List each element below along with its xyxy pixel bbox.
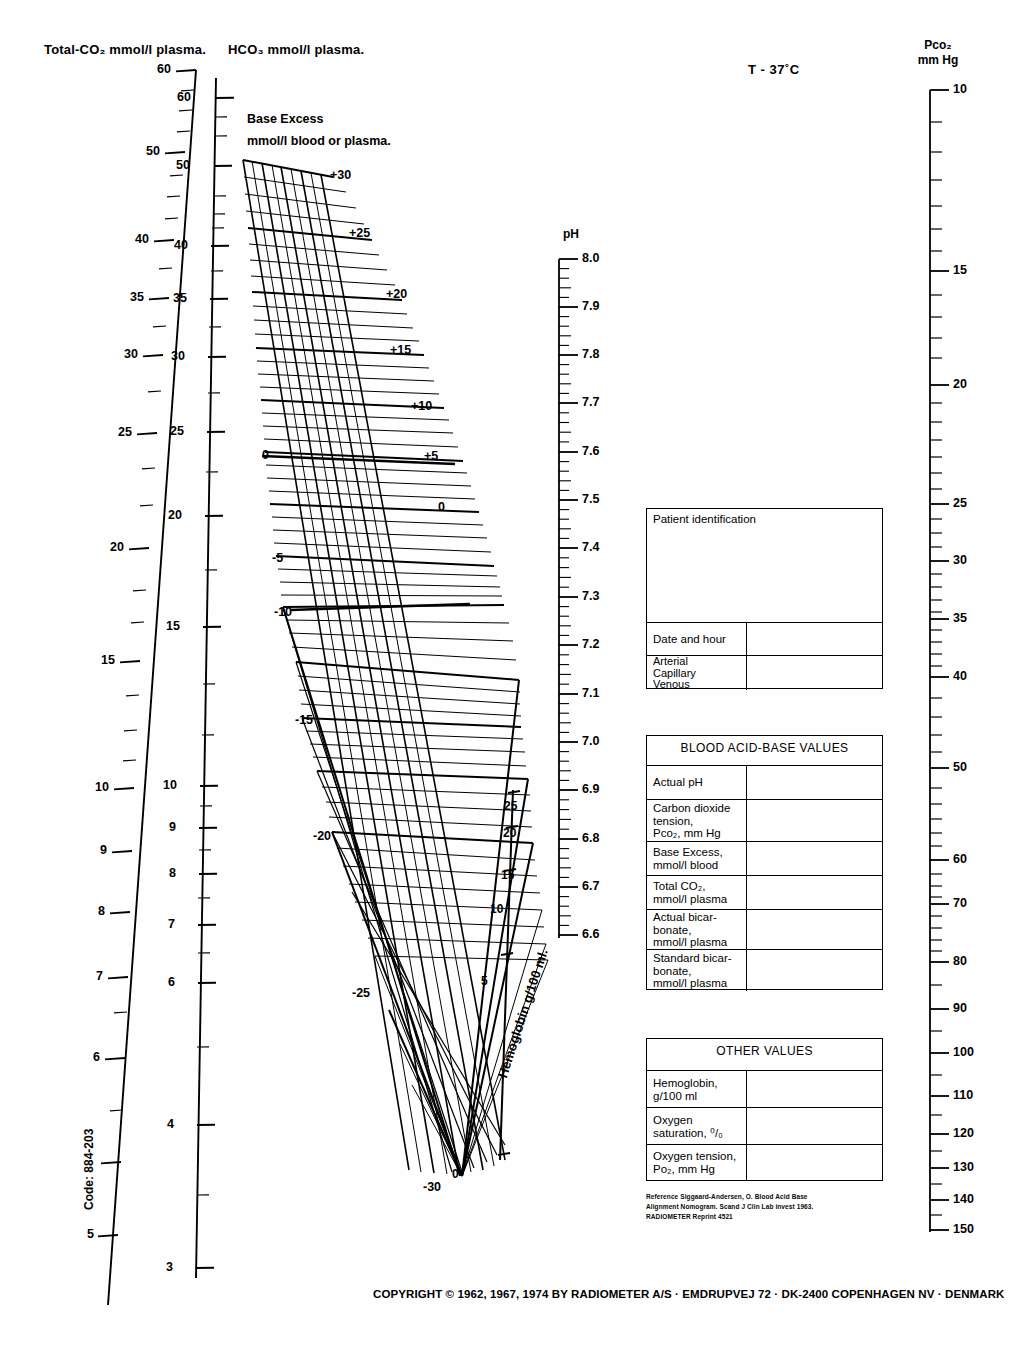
hco3-tick-3: 3 [128, 1260, 173, 1274]
pco2-tick-70: 70 [953, 896, 967, 910]
pco2-tick-150: 150 [953, 1222, 974, 1236]
ph-tick-7-3: 7.3 [582, 589, 599, 603]
pco2-tick-140: 140 [953, 1192, 974, 1206]
pco2-tick-120: 120 [953, 1126, 974, 1140]
base-excess-label-minus15: -15 [295, 713, 313, 727]
table-row: Actual pH [647, 766, 882, 800]
pco2-tick-110: 110 [953, 1088, 973, 1102]
pco2-tick-30: 30 [953, 553, 967, 567]
ph-tick-7-1: 7.1 [582, 686, 599, 700]
ph-tick-7-9: 7.9 [582, 299, 599, 313]
reference-line-3: RADIOMETER Reprint 4521 [646, 1212, 813, 1222]
hemoglobin-tick-15: 15 [501, 868, 514, 882]
oxygen-saturation-value[interactable] [747, 1108, 882, 1144]
hco3-tick-10: 10 [132, 778, 177, 792]
hco3-tick-35: 35 [142, 291, 187, 305]
ph-tick-7-8: 7.8 [582, 347, 599, 361]
total-co2-value[interactable] [747, 876, 882, 909]
sample-type-value[interactable] [747, 656, 882, 690]
table-row: Hemoglobin, g/100 ml [647, 1071, 882, 1108]
carbon-dioxide-tension-value[interactable] [747, 800, 882, 841]
total-co2-tick-60: 60 [131, 62, 171, 76]
base-excess-label-plus30: +30 [330, 168, 351, 182]
table-row: Total CO₂, mmol/l plasma [647, 876, 882, 910]
hemoglobin-tick-25: 25 [504, 799, 517, 813]
other-values-title: OTHER VALUES [647, 1039, 882, 1070]
hco3-tick-20: 20 [137, 508, 182, 522]
base-excess-label-plus15: +15 [390, 343, 411, 357]
table-row: Arterial Capillary Venous [647, 656, 882, 690]
hco3-tick-15: 15 [135, 619, 180, 633]
base-excess-label-plus5: +5 [424, 449, 438, 463]
blood-acid-base-header-row: BLOOD ACID-BASE VALUES [647, 736, 882, 766]
ph-tick-7-2: 7.2 [582, 637, 599, 651]
hco3-tick-25: 25 [139, 424, 184, 438]
base-excess-label-minus10: -10 [274, 605, 292, 619]
sample-type-label: Arterial Capillary Venous [647, 656, 747, 690]
ph-tick-7-7: 7.7 [582, 395, 599, 409]
ph-tick-6-6: 6.6 [582, 927, 599, 941]
pco2-tick-80: 80 [953, 954, 967, 968]
pco2-tick-60: 60 [953, 852, 967, 866]
total-co2-tick-35: 35 [104, 290, 144, 304]
reference-citation: Reference Siggaard-Andersen, O. Blood Ac… [646, 1192, 813, 1221]
hemoglobin-tick-10: 10 [490, 902, 503, 916]
pco2-tick-15: 15 [953, 263, 967, 277]
patient-id-header-row: Patient identification [647, 509, 882, 623]
table-row: Date and hour [647, 623, 882, 656]
hco3-tick-50: 50 [145, 158, 190, 172]
table-row: Oxygen saturation, ⁰/₀ [647, 1108, 882, 1145]
pco2-tick-40: 40 [953, 669, 967, 683]
table-row: Carbon dioxide tension, Pco₂, mm Hg [647, 800, 882, 842]
blood-acid-base-title: BLOOD ACID-BASE VALUES [647, 736, 882, 765]
date-and-hour-value[interactable] [747, 623, 882, 655]
total-co2-label: Total CO₂, mmol/l plasma [647, 876, 747, 909]
pco2-tick-50: 50 [953, 760, 967, 774]
blood-acid-base-values-table: BLOOD ACID-BASE VALUES Actual pH Carbon … [646, 735, 883, 990]
pco2-tick-20: 20 [953, 377, 967, 391]
base-excess-label-minus25: -25 [352, 986, 370, 1000]
base-excess-label-minus5: -5 [272, 551, 283, 565]
hco3-tick-6: 6 [130, 975, 175, 989]
ph-tick-6-8: 6.8 [582, 831, 599, 845]
oxygen-tension-label: Oxygen tension, Po₂, mm Hg [647, 1145, 747, 1180]
oxygen-saturation-label: Oxygen saturation, ⁰/₀ [647, 1108, 747, 1144]
standard-bicarbonate-value[interactable] [747, 950, 882, 991]
patient-id-title: Patient identification [647, 509, 882, 622]
total-co2-tick-50: 50 [120, 144, 160, 158]
total-co2-tick-8: 8 [65, 904, 105, 918]
pco2-tick-35: 35 [953, 611, 967, 625]
hemoglobin-value[interactable] [747, 1071, 882, 1107]
table-row: Standard bicar- bonate, mmol/l plasma [647, 950, 882, 991]
total-co2-tick-30: 30 [98, 347, 138, 361]
ph-tick-7-5: 7.5 [582, 492, 599, 506]
base-excess-value[interactable] [747, 842, 882, 875]
hco3-tick-30: 30 [140, 349, 185, 363]
base-excess-label: Base Excess, mmol/l blood [647, 842, 747, 875]
base-excess-label-zero-l: 0 [262, 448, 269, 462]
actual-ph-label: Actual pH [647, 766, 747, 799]
oxygen-tension-value[interactable] [747, 1145, 882, 1180]
ph-tick-6-7: 6.7 [582, 879, 599, 893]
total-co2-tick-5: 5 [54, 1227, 94, 1241]
base-excess-label-plus10: +10 [411, 399, 432, 413]
base-excess-label-minus30: -30 [423, 1180, 441, 1194]
hemoglobin-tick-5: 5 [481, 974, 488, 988]
base-excess-label-plus20: +20 [386, 287, 407, 301]
actual-ph-value[interactable] [747, 766, 882, 799]
total-co2-tick-20: 20 [84, 540, 124, 554]
ph-tick-7-0: 7.0 [582, 734, 599, 748]
standard-bicarbonate-label: Standard bicar- bonate, mmol/l plasma [647, 950, 747, 991]
pco2-tick-25: 25 [953, 496, 967, 510]
ph-tick-7-6: 7.6 [582, 444, 599, 458]
hemoglobin-tick-20: 20 [503, 826, 516, 840]
hco3-tick-9: 9 [131, 820, 176, 834]
nomogram-page: Total-CO₂ mmol/l plasma. HCO₃ mmol/l pla… [0, 0, 1012, 1347]
reference-line-1: Reference Siggaard-Andersen, O. Blood Ac… [646, 1192, 813, 1202]
other-values-table: OTHER VALUES Hemoglobin, g/100 ml Oxygen… [646, 1038, 883, 1181]
table-row: Base Excess, mmol/l blood [647, 842, 882, 876]
hemoglobin-label: Hemoglobin, g/100 ml [647, 1071, 747, 1107]
actual-bicarbonate-value[interactable] [747, 910, 882, 949]
hco3-tick-4: 4 [129, 1117, 174, 1131]
copyright-notice: COPYRIGHT © 1962, 1967, 1974 BY RADIOMET… [373, 1288, 1004, 1300]
